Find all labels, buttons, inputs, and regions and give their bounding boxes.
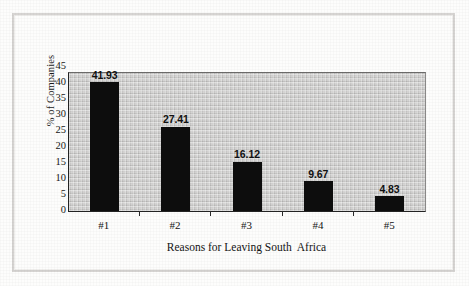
bar-value-label: 27.41	[163, 114, 189, 125]
y-tick-label: 20	[40, 141, 66, 152]
bar-value-label: 41.93	[92, 70, 118, 81]
y-tick-label: 0	[40, 204, 66, 215]
x-axis-tick-marks	[68, 211, 425, 217]
x-tick-mark	[353, 211, 354, 216]
y-tick-label: 30	[40, 109, 66, 120]
x-axis-title: Reasons for Leaving South Africa	[68, 241, 425, 253]
y-tick-label: 10	[40, 172, 66, 183]
x-tick-mark	[210, 211, 211, 216]
x-tick-mark	[282, 211, 283, 216]
x-tick-label: #1	[68, 219, 139, 231]
plot-area: 41.93 27.41 16.12 9.67	[68, 72, 426, 212]
y-tick-label: 45	[40, 61, 66, 72]
x-tick-label: #3	[211, 219, 282, 231]
x-tick-label: #2	[139, 219, 210, 231]
bar-chart: % of Companies 45 40 35 30 25 20 15 10 5…	[12, 13, 455, 272]
bar-slot: 27.41	[140, 73, 211, 211]
bar-value-label: 9.67	[308, 169, 328, 180]
bar[interactable]: 9.67	[304, 181, 333, 211]
chart-page: % of Companies 45 40 35 30 25 20 15 10 5…	[0, 0, 469, 286]
bar-slot: 16.12	[211, 73, 282, 211]
y-tick-label: 40	[40, 77, 66, 88]
y-tick-label: 25	[40, 125, 66, 136]
x-tick-label: #5	[354, 219, 425, 231]
bar-value-label: 4.83	[379, 184, 399, 195]
bar[interactable]: 27.41	[161, 127, 190, 211]
bar-slot: 4.83	[354, 73, 425, 211]
bar[interactable]: 16.12	[233, 162, 262, 211]
bar-slot: 9.67	[283, 73, 354, 211]
bar-value-label: 16.12	[234, 149, 260, 160]
bar[interactable]: 4.83	[375, 196, 404, 211]
y-tick-label: 35	[40, 93, 66, 104]
x-tick-label: #4	[282, 219, 353, 231]
bar-series: 41.93 27.41 16.12 9.67	[69, 73, 425, 211]
bar-slot: 41.93	[69, 73, 140, 211]
y-tick-label: 5	[40, 188, 66, 199]
bar[interactable]: 41.93	[90, 82, 119, 211]
y-tick-label: 15	[40, 157, 66, 168]
x-axis-tick-labels: #1 #2 #3 #4 #5	[68, 219, 425, 231]
y-axis-tick-labels: 45 40 35 30 25 20 15 10 5 0	[40, 66, 66, 210]
x-tick-mark	[139, 211, 140, 216]
